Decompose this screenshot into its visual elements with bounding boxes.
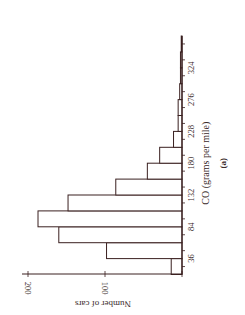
y-tick-label: 200	[23, 282, 33, 295]
y-axis-ticks: 100200	[23, 271, 182, 294]
histogram-bar	[107, 243, 182, 259]
histogram-bar	[160, 147, 182, 163]
y-tick-label: 100	[100, 282, 110, 295]
histogram-bars	[38, 36, 182, 275]
x-tick-label: 180	[186, 157, 196, 170]
x-tick-label: 84	[186, 222, 196, 231]
histogram-bar	[147, 163, 182, 179]
histogram-chart: 3684132180228276324 100200 CO (grams per…	[0, 0, 245, 315]
y-axis-label: Number of cars	[75, 299, 131, 309]
histogram-bar	[38, 211, 182, 227]
figure-caption: (a)	[218, 158, 228, 169]
histogram-bar	[59, 227, 182, 243]
x-tick-label: 36	[186, 254, 196, 263]
histogram-svg: 3684132180228276324 100200 CO (grams per…	[0, 0, 245, 315]
histogram-bar	[171, 259, 182, 275]
histogram-bar	[174, 131, 182, 147]
x-tick-label: 228	[186, 125, 196, 138]
histogram-bar	[68, 195, 182, 211]
x-axis-label: CO (grams per mile)	[200, 122, 212, 205]
x-tick-label: 324	[186, 61, 196, 75]
x-axis-ticks: 3684132180228276324	[182, 44, 196, 267]
x-tick-label: 276	[186, 93, 196, 106]
histogram-bar	[116, 179, 182, 195]
x-tick-label: 132	[186, 189, 196, 202]
